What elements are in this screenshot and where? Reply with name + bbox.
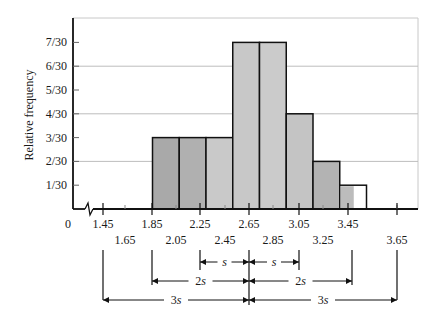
interval-label: s: [222, 255, 227, 269]
x-tick-label: 3.65: [387, 233, 408, 247]
histogram-bar: [233, 42, 260, 209]
histogram-bar: [153, 138, 180, 209]
x-tick-label: 2.85: [263, 233, 284, 247]
interval-label: 2s: [195, 274, 206, 288]
x-tick-label: 3.05: [289, 217, 310, 231]
y-ticks: 1/302/303/304/305/306/307/30: [46, 35, 79, 192]
y-tick-label: 3/30: [46, 131, 67, 145]
x-tick-label: 2.05: [166, 233, 187, 247]
histogram-bars: [153, 42, 367, 209]
interval-label: 2s: [295, 274, 306, 288]
x-tick-label: 2.45: [215, 233, 236, 247]
x-tick-label: 1.85: [142, 217, 163, 231]
histogram-bar: [179, 138, 206, 209]
sd-annotations: ss2s2s3s3s: [103, 250, 397, 307]
y-axis-label: Relative frequency: [22, 70, 36, 161]
bar-shading: [341, 186, 354, 208]
histogram-chart: 1/302/303/304/305/306/307/30 01.451.852.…: [0, 0, 438, 322]
x-tick-label: 1.45: [93, 217, 114, 231]
histogram-bar: [313, 161, 340, 209]
histogram-bar: [206, 138, 233, 209]
histogram-bar: [260, 42, 287, 209]
x-tick-label: 2.65: [239, 217, 260, 231]
y-tick-label: 5/30: [46, 83, 67, 97]
x-tick-label: 1.65: [115, 233, 136, 247]
x-tick-label: 2.25: [190, 217, 211, 231]
y-tick-label: 6/30: [46, 59, 67, 73]
interval-label: 3s: [318, 293, 329, 307]
y-tick-label: 1/30: [46, 178, 67, 192]
interval-label: 3s: [171, 293, 182, 307]
y-tick-label: 4/30: [46, 107, 67, 121]
x-tick-label: 0: [65, 217, 71, 231]
interval-label: s: [272, 255, 277, 269]
x-tick-label: 3.45: [338, 217, 359, 231]
histogram-bar: [286, 114, 313, 209]
x-tick-label: 3.25: [313, 233, 334, 247]
axis-break-icon: [85, 203, 93, 215]
y-tick-label: 7/30: [46, 35, 67, 49]
y-tick-label: 2/30: [46, 154, 67, 168]
